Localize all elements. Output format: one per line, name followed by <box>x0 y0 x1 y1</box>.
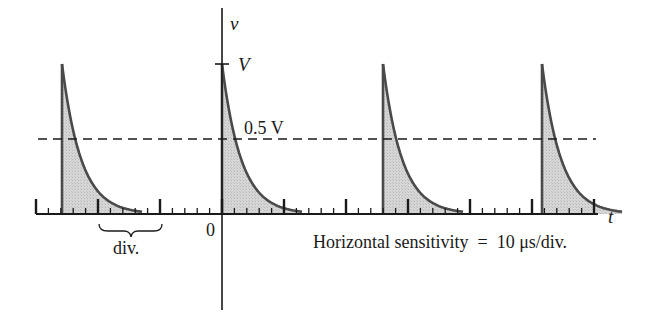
division-brace <box>99 224 162 237</box>
v-axis-label: v <box>230 13 239 34</box>
waveform-canvas: v V 0.5 V t 0 div. Horizontal sensitivit… <box>0 0 648 319</box>
origin-label: 0 <box>206 220 215 240</box>
division-label: div. <box>113 238 139 258</box>
pulse-waveform-diagram: v V 0.5 V t 0 div. Horizontal sensitivit… <box>0 0 648 319</box>
t-axis-label: t <box>608 206 614 227</box>
sensitivity-label: Horizontal sensitivity = 10 μs/div. <box>313 232 567 252</box>
peak-label: V <box>238 54 252 75</box>
half-amplitude-label: 0.5 V <box>244 118 284 138</box>
